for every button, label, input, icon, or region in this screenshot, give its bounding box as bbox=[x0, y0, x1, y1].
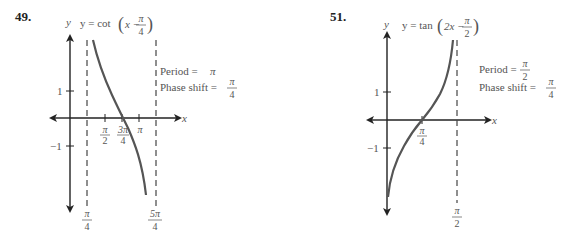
equation-49-frac-den: 4 bbox=[139, 26, 144, 37]
x-tick-pi-over-4-num: π bbox=[419, 125, 425, 136]
equation-51-frac-num: π bbox=[464, 15, 470, 26]
asymptote-label-pi-over-4-den: 4 bbox=[85, 221, 90, 232]
x-axis-label: x bbox=[491, 114, 497, 126]
equation-51-prefix: y = tan bbox=[402, 19, 433, 31]
x-tick-pi-over-4-den: 4 bbox=[420, 136, 425, 147]
period-value: π bbox=[210, 65, 216, 77]
asymptote-label-5pi-over-4-den: 4 bbox=[153, 221, 158, 232]
x-tick-3pi-over-4-den: 4 bbox=[121, 135, 126, 146]
period-label: Period = bbox=[479, 63, 517, 75]
phase-shift-label: Phase shift = bbox=[479, 81, 536, 93]
asymptote-label-pi-over-2-num: π bbox=[454, 205, 460, 216]
y-tick-neg1: −1 bbox=[50, 140, 62, 152]
graph-51: x y 1 −1 π 4 π 2 y = tan ( 2x − π 2 ) Pe… bbox=[367, 15, 556, 229]
equation-49-prefix: y = cot bbox=[80, 17, 111, 29]
tan-curve bbox=[388, 40, 453, 197]
phase-shift-den: 4 bbox=[549, 89, 554, 100]
period-label: Period = bbox=[160, 65, 198, 77]
x-tick-pi-over-2-num: π bbox=[102, 124, 108, 135]
equation-51-inner: 2x − bbox=[444, 20, 465, 32]
paren-open: ( bbox=[118, 14, 124, 35]
paren-close: ) bbox=[473, 16, 479, 37]
phase-shift-den: 4 bbox=[230, 89, 235, 100]
x-axis-label: x bbox=[181, 112, 187, 124]
asymptote-label-5pi-over-4-num: 5π bbox=[150, 208, 161, 219]
period-num: π bbox=[522, 58, 528, 69]
y-tick-1: 1 bbox=[57, 85, 63, 97]
y-tick-1: 1 bbox=[374, 86, 380, 98]
equation-49-frac-num: π bbox=[138, 13, 144, 24]
equation-51-frac-den: 2 bbox=[465, 28, 470, 39]
x-tick-pi: π bbox=[137, 124, 143, 135]
phase-shift-label: Phase shift = bbox=[160, 81, 217, 93]
figure-canvas: x y 1 −1 π 2 3π 4 π π 4 5π 4 y = cot ( x… bbox=[0, 0, 576, 243]
y-axis-label: y bbox=[65, 16, 71, 28]
asymptote-label-pi-over-2-den: 2 bbox=[455, 218, 460, 229]
x-tick-pi-over-2-den: 2 bbox=[103, 135, 108, 146]
y-axis-label: y bbox=[383, 18, 389, 30]
y-tick-neg1: −1 bbox=[367, 142, 379, 154]
graph-49: x y 1 −1 π 2 3π 4 π π 4 5π 4 y = cot ( x… bbox=[50, 13, 237, 232]
asymptote-label-pi-over-4-num: π bbox=[84, 208, 90, 219]
phase-shift-num: π bbox=[229, 76, 235, 87]
paren-close: ) bbox=[147, 14, 153, 35]
phase-shift-num: π bbox=[548, 76, 554, 87]
paren-open: ( bbox=[437, 16, 443, 37]
